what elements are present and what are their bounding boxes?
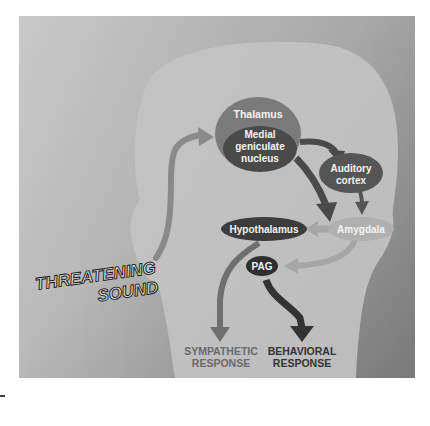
sympathetic-label-2: RESPONSE (192, 357, 250, 369)
mgn-label-1: Medial (244, 129, 275, 140)
auditory-cortex-label-2: cortex (336, 175, 366, 186)
auditory-cortex-label-1: Auditory (330, 163, 372, 174)
thalamus-label: Thalamus (233, 108, 282, 120)
sympathetic-label-1: SYMPATHETIC (184, 345, 258, 357)
pag-label: PAG (252, 261, 273, 272)
mgn-label-2: geniculate (235, 141, 285, 152)
amygdala-label: Amygdala (337, 224, 385, 235)
mgn-label-3: nucleus (241, 153, 279, 164)
fear-pathway-diagram: Thalamus Medial geniculate nucleus Audit… (0, 0, 430, 426)
hypothalamus-label: Hypothalamus (230, 224, 299, 235)
behavioral-label-1: BEHAVIORAL (268, 345, 337, 357)
margin-mark (0, 395, 5, 397)
behavioral-label-2: RESPONSE (273, 357, 331, 369)
